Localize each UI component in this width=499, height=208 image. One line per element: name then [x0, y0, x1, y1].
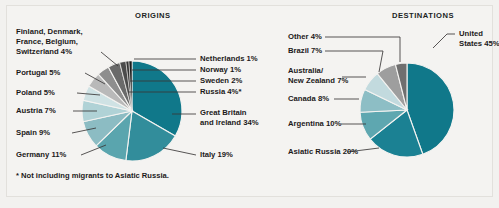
label-spain: Spain 9%	[16, 128, 50, 139]
label-finland-group-line2: France, Belgium,	[16, 37, 78, 48]
leader-finland-group	[101, 52, 118, 66]
label-portugal: Portugal 5%	[16, 68, 60, 79]
leader-italy	[163, 148, 196, 155]
label-austria: Austria 7%	[16, 106, 56, 117]
leader-united-states	[433, 34, 455, 48]
figure-footnote: * Not including migrants to Asiatic Russ…	[16, 171, 169, 180]
label-italy: Italy 19%	[200, 150, 233, 161]
label-argentina: Argentina 10%	[288, 119, 341, 130]
label-sweden: Sweden 2%	[200, 76, 242, 87]
label-great-britain-line2: and Ireland 34%	[200, 118, 259, 129]
label-united-states-line1: United	[459, 29, 483, 40]
label-finland-group-line1: Finland, Denmark,	[16, 27, 83, 38]
label-great-britain-line1: Great Britain	[200, 108, 247, 119]
label-australia-nz-line1: Australia/	[288, 66, 323, 77]
label-poland: Poland 5%	[16, 88, 55, 99]
migration-pie-chart-figure: ORIGINS DESTINATIONS Great Britain and I…	[0, 0, 499, 208]
label-germany: Germany 11%	[16, 150, 66, 161]
label-finland-group-line3: Switzerland 4%	[16, 47, 72, 58]
label-canada: Canada 8%	[288, 94, 329, 105]
leader-brazil	[325, 51, 383, 72]
pie-destinations: United States 45%Asiatic Russia 20%Argen…	[360, 63, 454, 157]
label-norway: Norway 1%	[200, 65, 241, 76]
label-other: Other 4%	[288, 32, 322, 43]
label-australia-nz-line2: New Zealand 7%	[288, 76, 348, 87]
label-brazil: Brazil 7%	[288, 46, 322, 57]
label-netherlands: Netherlands 1%	[200, 54, 258, 65]
label-united-states-line2: States 45%	[459, 39, 499, 50]
leader-other	[325, 37, 400, 62]
label-asiatic-russia: Asiatic Russia 20%	[288, 147, 358, 158]
label-russia: Russia 4%*	[200, 87, 241, 98]
